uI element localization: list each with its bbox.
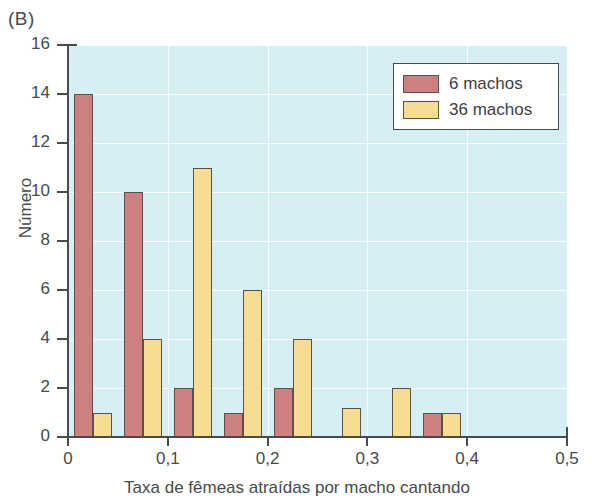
legend: 6 machos 36 machos: [393, 63, 559, 130]
y-axis-tick: [57, 142, 68, 144]
x-axis-tick-label: 0,2: [246, 449, 290, 469]
y-axis-tick-label: 16: [14, 34, 50, 54]
bar: [293, 339, 312, 437]
axis-corner-tick-top: [67, 44, 77, 46]
bar: [342, 408, 361, 437]
x-axis-tick: [67, 436, 69, 446]
y-axis-title: Número: [16, 138, 36, 278]
x-axis-tick: [167, 436, 169, 446]
gridline-vertical: [567, 45, 568, 437]
y-axis-tick: [57, 289, 68, 291]
y-axis-tick: [57, 93, 68, 95]
y-axis-tick-label: 2: [14, 377, 50, 397]
bar: [392, 388, 411, 437]
x-axis-tick-label: 0,3: [345, 449, 389, 469]
x-axis-title: Taxa de fêmeas atraídas por macho cantan…: [0, 478, 594, 498]
y-axis-tick-label: 6: [14, 279, 50, 299]
y-axis-tick: [57, 387, 68, 389]
legend-label-0: 6 machos: [449, 74, 523, 94]
figure-panel-b: (B) 0246810121416 00,10,20,30,40,5 Númer…: [0, 0, 594, 503]
y-axis-tick: [57, 191, 68, 193]
bar: [423, 413, 442, 438]
y-axis-tick: [57, 338, 68, 340]
legend-swatch-icon-6-machos: [403, 75, 439, 93]
y-axis-tick-label: 4: [14, 328, 50, 348]
bar: [124, 192, 143, 437]
legend-swatch-icon-36-machos: [403, 101, 439, 119]
bar: [93, 413, 112, 438]
y-axis-tick: [57, 240, 68, 242]
x-axis-tick: [267, 436, 269, 446]
bar: [143, 339, 162, 437]
x-axis-tick: [466, 436, 468, 446]
bar: [224, 413, 243, 438]
bar: [442, 413, 461, 438]
bar: [193, 168, 212, 438]
bar: [74, 94, 93, 437]
y-axis-tick: [57, 44, 68, 46]
y-axis-tick-label: 0: [14, 426, 50, 446]
x-axis-tick: [566, 436, 568, 446]
legend-item-0: 6 machos: [403, 71, 549, 97]
bar: [243, 290, 262, 437]
x-axis-tick-label: 0: [46, 449, 90, 469]
legend-label-1: 36 machos: [449, 100, 532, 120]
x-axis-tick-label: 0,5: [545, 449, 589, 469]
x-axis-line: [67, 436, 568, 438]
x-axis-tick: [366, 436, 368, 446]
x-axis-tick-label: 0,4: [445, 449, 489, 469]
legend-item-1: 36 machos: [403, 97, 549, 123]
x-axis-tick-label: 0,1: [146, 449, 190, 469]
bar: [174, 388, 193, 437]
panel-label: (B): [8, 8, 35, 30]
bar: [274, 388, 293, 437]
y-axis-tick-label: 14: [14, 83, 50, 103]
